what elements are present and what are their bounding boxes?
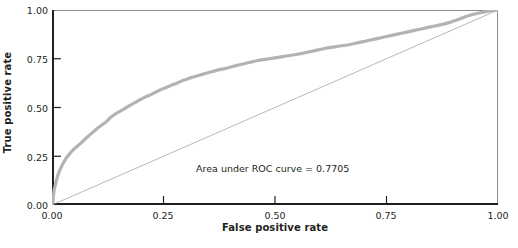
plot-area [52, 10, 498, 205]
y-axis-title-text: True positive rate [3, 52, 14, 153]
roc-curve-figure: True positive rate 1.00 0.75 0.50 0.25 0… [0, 0, 518, 248]
y-axis-ticks [54, 59, 61, 157]
x-axis-ticks [164, 196, 387, 203]
y-tick-label-1.00: 1.00 [14, 5, 48, 16]
x-tick-label-0.50: 0.50 [255, 210, 295, 221]
caption-sliver [8, 242, 508, 248]
y-tick-label-0.50: 0.50 [14, 103, 48, 114]
x-tick-label-0.75: 0.75 [366, 210, 406, 221]
x-tick-label-0.00: 0.00 [32, 210, 72, 221]
x-tick-label-0.25: 0.25 [143, 210, 183, 221]
y-tick-label-0.75: 0.75 [14, 54, 48, 65]
x-tick-label-1.00: 1.00 [478, 210, 518, 221]
roc-plot-svg [52, 10, 498, 205]
y-tick-label-0.25: 0.25 [14, 152, 48, 163]
auc-annotation-text: Area under ROC curve = 0.7705 [196, 163, 349, 174]
reference-diagonal-line [52, 10, 498, 205]
x-axis-title: False positive rate [52, 222, 498, 233]
